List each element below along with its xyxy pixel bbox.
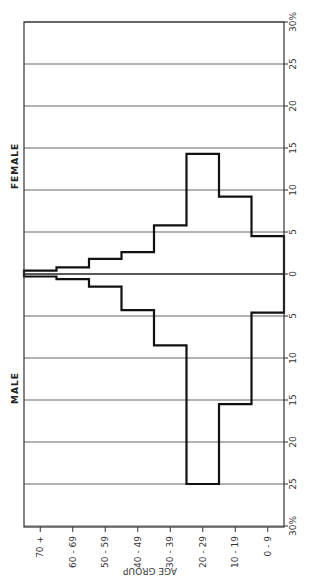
male-label: MALE [10, 372, 20, 404]
female-outline [24, 154, 284, 274]
male-outline [24, 274, 284, 484]
percent-tick-label: 0 [288, 271, 298, 277]
percent-tick-label: 15 [288, 142, 298, 153]
percent-tick-label: 5 [288, 229, 298, 235]
percent-tick-label: 20 [288, 100, 298, 112]
percent-tick-label: 10 [288, 352, 298, 364]
age-tick-label: 30 - 39 [165, 536, 175, 568]
age-tick-label: 0 - 9 [263, 536, 273, 557]
percent-tick-label: 20 [288, 436, 298, 448]
percent-tick-label: 25 [288, 478, 298, 489]
percent-tick-label: 10 [288, 184, 298, 196]
percent-tick-label: 15 [288, 394, 298, 405]
percent-tick-labels: 051015202530%51015202530% [284, 12, 298, 536]
age-tick-label: 60 - 69 [68, 536, 78, 568]
age-tick-label: 70 + [35, 536, 45, 558]
distribution-outline [24, 154, 284, 484]
age-group-tick-labels: 70 +60 - 6950 - 5940 - 4930 - 3920 - 291… [35, 527, 273, 568]
percent-tick-label: 30% [288, 516, 298, 536]
percent-tick-label: 5 [288, 313, 298, 319]
age-tick-label: 50 - 59 [100, 536, 110, 568]
female-label: FEMALE [10, 143, 20, 189]
percent-tick-label: 30% [288, 12, 298, 32]
population-pyramid-chart: 051015202530%51015202530% 70 +60 - 6950 … [0, 0, 314, 582]
age-tick-label: 20 - 29 [198, 536, 208, 568]
age-tick-label: 40 - 49 [133, 536, 143, 568]
age-axis-title: AGE GROUP [123, 566, 177, 576]
percent-tick-label: 25 [288, 58, 298, 69]
age-tick-label: 10 - 19 [230, 536, 240, 568]
